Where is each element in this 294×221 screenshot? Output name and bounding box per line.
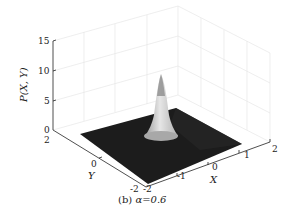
y-tick-2: 2 [44, 135, 50, 145]
x-tick-1: 1 [244, 150, 250, 160]
caption-prefix: (b) [118, 194, 132, 205]
z-tick-5: 5 [44, 96, 50, 106]
figure-caption: (b) α=0.6 [118, 194, 166, 205]
z-tick-15: 15 [38, 36, 50, 46]
z-axis-label: P(X, Y) [18, 67, 29, 103]
surface-peak [144, 74, 178, 141]
y-tick-neg2: -2 [130, 184, 139, 194]
z-tick-0: 0 [44, 125, 50, 135]
x-axis-label: X [209, 174, 218, 185]
y-axis-label: Y [88, 170, 96, 181]
caption-param: α=0.6 [135, 194, 166, 205]
x-tick-neg1: -1 [177, 171, 186, 181]
z-tick-10: 10 [38, 66, 50, 76]
x-tick-0: 0 [212, 162, 218, 172]
surface-plot: 15 10 5 0 2 0 -2 -2 -1 0 1 2 P(X, Y) Y X [0, 0, 294, 221]
x-tick-neg2: -2 [143, 184, 152, 194]
y-tick-0: 0 [91, 159, 97, 169]
x-tick-2: 2 [272, 144, 278, 154]
